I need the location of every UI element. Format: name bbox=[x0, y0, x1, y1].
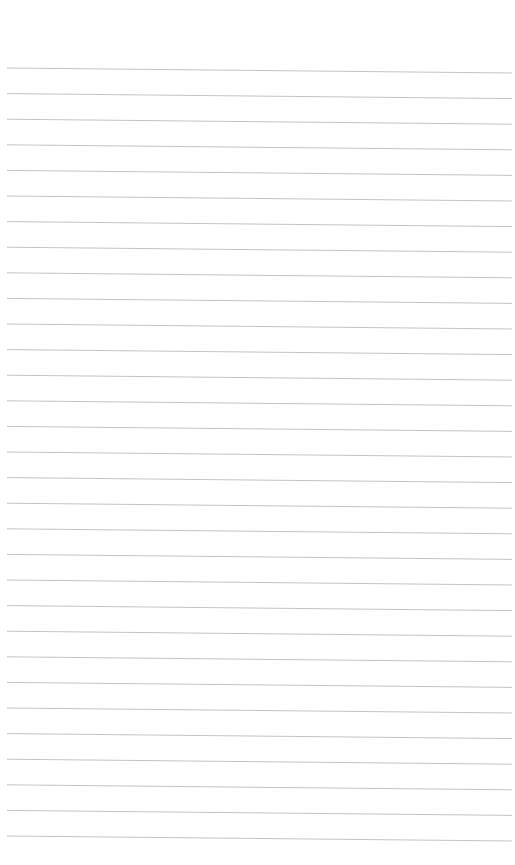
ruled-line bbox=[7, 657, 512, 662]
ruled-line bbox=[7, 529, 512, 534]
ruled-line bbox=[7, 503, 512, 508]
ruled-line bbox=[7, 452, 512, 457]
ruled-line bbox=[7, 401, 512, 406]
ruled-line bbox=[7, 196, 512, 201]
ruled-line bbox=[7, 631, 512, 636]
ruled-line bbox=[7, 554, 512, 559]
ruled-line bbox=[7, 68, 512, 73]
ruled-line bbox=[7, 94, 512, 99]
ruled-line bbox=[7, 273, 512, 278]
ruled-line bbox=[7, 119, 512, 124]
ruled-line bbox=[7, 350, 512, 355]
ruled-line bbox=[7, 759, 512, 764]
ruled-line bbox=[7, 170, 512, 175]
ruled-line bbox=[7, 708, 512, 713]
ruled-line bbox=[7, 682, 512, 687]
ruled-line bbox=[7, 145, 512, 150]
ruled-line bbox=[7, 247, 512, 252]
ruled-line bbox=[7, 375, 512, 380]
ruled-line bbox=[7, 426, 512, 431]
ruled-line bbox=[7, 785, 512, 790]
ruled-line bbox=[7, 580, 512, 585]
lined-paper-page bbox=[0, 0, 515, 865]
ruled-line bbox=[7, 836, 512, 841]
ruled-line bbox=[7, 810, 512, 815]
ruled-line bbox=[7, 324, 512, 329]
ruled-line bbox=[7, 734, 512, 739]
ruled-lines bbox=[0, 0, 515, 865]
ruled-line bbox=[7, 478, 512, 483]
ruled-line bbox=[7, 606, 512, 611]
ruled-line bbox=[7, 298, 512, 303]
ruled-line bbox=[7, 222, 512, 227]
